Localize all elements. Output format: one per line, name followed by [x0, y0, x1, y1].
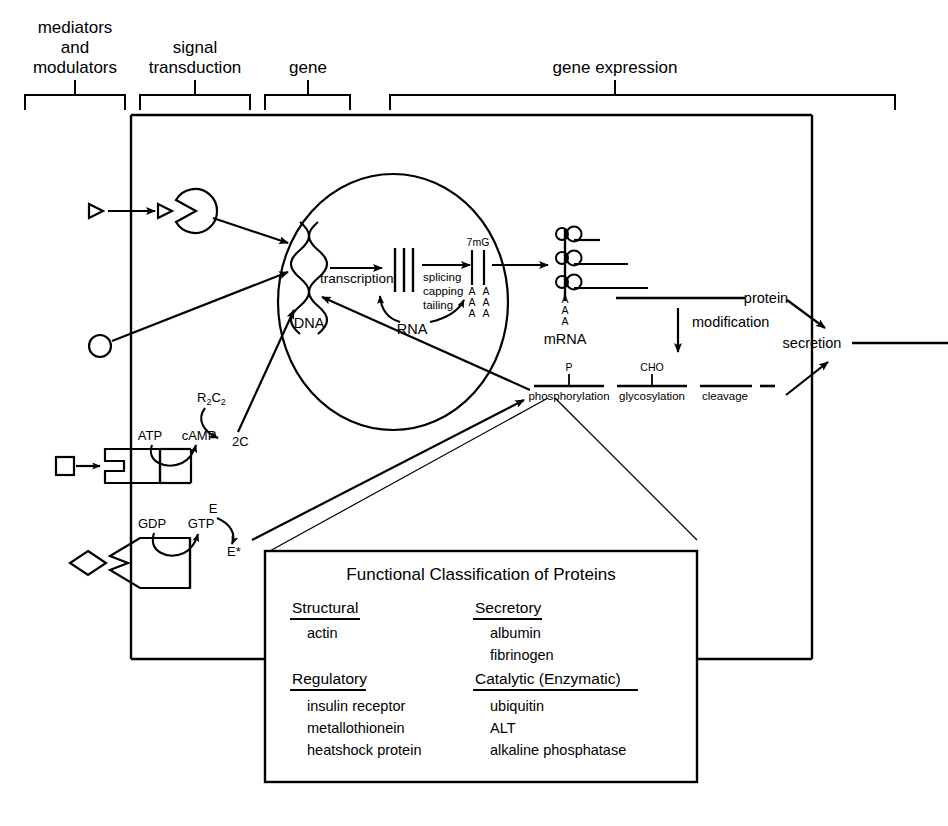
- primary-transcript: [395, 248, 413, 292]
- protein-label: protein: [744, 290, 788, 306]
- poly-a-tail-mrna: A A A: [561, 293, 568, 327]
- effector-label: E: [209, 501, 218, 516]
- ribosomes-and-nascent-chains: [556, 227, 648, 290]
- mature-transcript: [472, 250, 484, 285]
- inset-heading-regulatory: Regulatory: [292, 670, 367, 687]
- rna-label: RNA: [397, 321, 428, 337]
- catalytic-subunit-label: 2C: [232, 434, 249, 449]
- camp-receptor: [105, 449, 191, 483]
- cho-group-label: CHO: [640, 361, 663, 373]
- effector-to-phosphorylation-arrow: [252, 400, 524, 540]
- ligand-circle: [89, 335, 111, 357]
- section-label-mediators-line1: mediators: [38, 18, 113, 37]
- inset-heading-secretory: Secretory: [475, 599, 542, 616]
- section-label-signal-line2: transduction: [149, 58, 242, 77]
- bracket-gene: [265, 80, 350, 110]
- inset-heading-structural: Structural: [292, 599, 358, 616]
- phosphorylation-label: phosphorylation: [528, 390, 609, 402]
- secretion-label: secretion: [783, 335, 842, 351]
- ligand-triangle-bound: [158, 204, 172, 218]
- modification-phosphorylation: P phosphorylation: [528, 361, 609, 402]
- gdp-label: GDP: [138, 516, 166, 531]
- section-label-gene: gene: [289, 58, 327, 77]
- processing-step-tailing: tailing: [423, 299, 453, 311]
- effector-active-label: E*: [227, 544, 241, 559]
- section-label-signal-line1: signal: [173, 38, 217, 57]
- dna-label: DNA: [294, 315, 325, 331]
- bracket-mediators: [25, 80, 125, 110]
- receptor-to-dna-arrow: [213, 218, 288, 243]
- figure-root: mediators and modulators signal transduc…: [0, 0, 948, 826]
- atp-label: ATP: [138, 428, 162, 443]
- secretion-from-modified-arrow: [786, 362, 828, 395]
- pac-man-receptor: [176, 189, 217, 233]
- polya-b3: A: [482, 307, 489, 319]
- inset-item-actin: actin: [307, 625, 338, 641]
- ligand-square: [56, 457, 100, 475]
- catalytic-subunit-to-dna-arrow: [238, 310, 294, 432]
- gdp-to-gtp-curve: [153, 533, 198, 556]
- inset-heading-catalytic: Catalytic (Enzymatic): [475, 670, 621, 687]
- inset-item-alt: ALT: [490, 720, 516, 736]
- inset-item-insulin-receptor: insulin receptor: [307, 698, 405, 714]
- inset-item-albumin: albumin: [490, 625, 541, 641]
- inset-item-metallothionein: metallothionein: [307, 720, 405, 736]
- ligand-diamond: [70, 551, 106, 575]
- poly-a-tail-nucleus: A A A A A A: [468, 285, 489, 319]
- cap-label: 7mG: [467, 236, 490, 248]
- transcription-label: transcription: [320, 271, 394, 286]
- r2c2-label: R2C2: [197, 390, 226, 407]
- mrna-polya-3: A: [561, 315, 568, 327]
- bracket-signal-transduction: [140, 80, 250, 110]
- section-label-gene-expression: gene expression: [553, 58, 678, 77]
- gtp-label: GTP: [188, 516, 215, 531]
- glycosylation-label: glycosylation: [619, 390, 685, 402]
- effector-activation-curve: [217, 518, 233, 544]
- modification-cleavage: cleavage: [700, 386, 775, 402]
- inset-item-fibrinogen: fibrinogen: [490, 647, 554, 663]
- polya-a3: A: [468, 307, 475, 319]
- top-section-brackets: mediators and modulators signal transduc…: [25, 18, 895, 110]
- inset-item-ubiquitin: ubiquitin: [490, 698, 544, 714]
- inset-item-alkaline-phosphatase: alkaline phosphatase: [490, 742, 626, 758]
- g-protein-receptor: [110, 538, 190, 588]
- cleavage-label: cleavage: [702, 390, 748, 402]
- processing-step-splicing: splicing: [423, 271, 461, 283]
- ligand-triangle-extracellular: [89, 204, 103, 218]
- section-label-mediators-line3: modulators: [33, 58, 117, 77]
- modification-glycosylation: CHO glycosylation: [617, 361, 687, 402]
- phosphate-group-label: P: [565, 361, 572, 373]
- bracket-gene-expression: [390, 80, 895, 110]
- inset-title: Functional Classification of Proteins: [346, 565, 615, 584]
- circle-ligand-to-dna-arrow: [112, 272, 288, 341]
- secretion-from-protein-arrow: [787, 300, 825, 328]
- section-label-mediators-line2: and: [61, 38, 89, 57]
- inset-item-heatshock-protein: heatshock protein: [307, 742, 421, 758]
- diagram-canvas: mediators and modulators signal transduc…: [0, 0, 948, 826]
- modification-label: modification: [692, 314, 769, 330]
- processing-step-capping: capping: [423, 285, 463, 297]
- pka-holoenzyme-label: R2C2: [197, 390, 226, 407]
- mrna-label: mRNA: [544, 331, 587, 347]
